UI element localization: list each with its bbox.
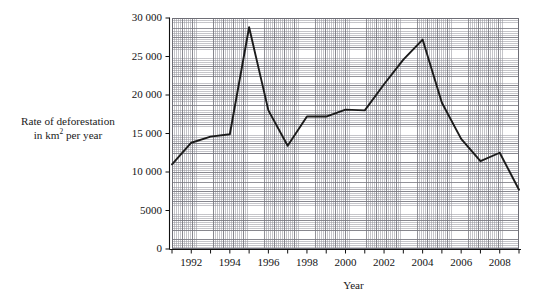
y-axis-tick-label: 30 000 — [96, 11, 162, 23]
x-axis-ticks — [172, 250, 519, 254]
y-axis-ticks — [166, 18, 170, 249]
x-axis-tick-label: 1998 — [285, 256, 329, 268]
y-axis-tick-label: 10 000 — [96, 165, 162, 177]
y-axis-tick-label: 15 000 — [96, 127, 162, 139]
x-axis-tick-label: 2006 — [439, 256, 483, 268]
x-axis-tick-label: 1992 — [169, 256, 213, 268]
x-axis-tick-label: 2008 — [478, 256, 522, 268]
x-axis-title: Year — [0, 279, 537, 291]
x-axis-tick-label: 1994 — [208, 256, 252, 268]
x-axis-tick-label: 2000 — [324, 256, 368, 268]
x-axis-tick-label: 2002 — [362, 256, 406, 268]
deforestation-series-line — [172, 27, 519, 189]
x-axis-tick-label: 2004 — [401, 256, 445, 268]
x-axis-title-text: Year — [343, 279, 364, 291]
y-axis-tick-label: 0 — [96, 242, 162, 254]
y-axis-tick-label: 5000 — [96, 204, 162, 216]
y-axis-tick-label: 20 000 — [96, 88, 162, 100]
deforestation-line-chart: Rate of deforestation in km2 per year 05… — [0, 0, 537, 305]
y-axis-tick-label: 25 000 — [96, 50, 162, 62]
y-axis — [166, 18, 170, 250]
x-axis-tick-label: 1996 — [246, 256, 290, 268]
x-axis — [170, 250, 522, 254]
